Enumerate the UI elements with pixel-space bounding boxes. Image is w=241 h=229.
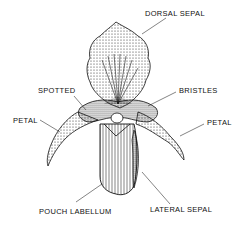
label-petal-left: PETAL (13, 117, 38, 125)
lateral-sepal-shape (132, 130, 139, 188)
orchid-illustration (0, 0, 241, 229)
label-pouch-labellum: POUCH LABELLUM (39, 208, 112, 216)
label-spotted: SPOTTED (38, 87, 76, 95)
bristled-center-shape (78, 100, 157, 123)
pouch-labellum-shape (100, 124, 137, 195)
label-bristles: BRISTLES (179, 87, 218, 95)
dorsal-sepal-shape (87, 22, 150, 108)
label-dorsal-sepal: DORSAL SEPAL (145, 10, 205, 18)
label-lateral-sepal: LATERAL SEPAL (150, 206, 212, 214)
label-petal-right: PETAL (207, 119, 232, 127)
orchid-diagram: DORSAL SEPAL SPOTTED BRISTLES PETAL PETA… (0, 0, 241, 229)
